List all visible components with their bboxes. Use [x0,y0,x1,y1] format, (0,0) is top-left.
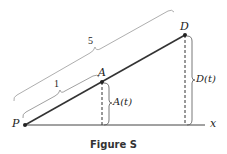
figure-caption: Figure S [0,139,227,150]
ray-p-to-d [25,35,185,125]
label-x-axis: x [210,117,216,130]
point-p [23,123,27,127]
point-a [100,80,104,84]
label-length-5: 5 [88,35,93,46]
label-a: A [98,66,106,79]
label-a-of-t: A(t) [113,96,132,107]
label-d-of-t: D(t) [196,73,216,84]
figure-s-diagram [0,0,227,154]
label-length-1: 1 [54,78,59,89]
label-d: D [180,20,189,33]
brace-d-height [187,36,195,125]
label-p: P [12,117,19,130]
brace-a-height [104,83,112,125]
brace-pa-length [23,75,99,118]
point-d [183,33,187,37]
